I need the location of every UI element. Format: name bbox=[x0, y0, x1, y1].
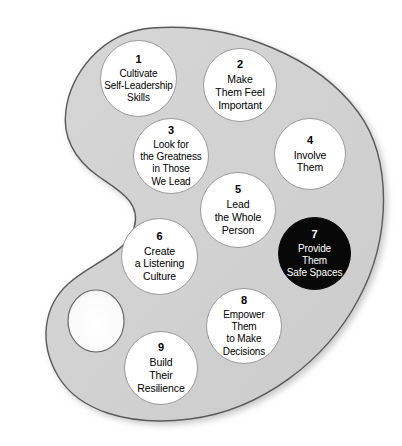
thumb-hole-icon bbox=[68, 290, 124, 352]
artist-palette-shape bbox=[0, 0, 402, 446]
node-number: 5 bbox=[235, 183, 241, 197]
node-number: 1 bbox=[135, 53, 141, 67]
palette-node-8[interactable]: 8 Empower Them to Make Decisions bbox=[206, 288, 282, 364]
palette-node-3[interactable]: 3 Look for the Greatness in Those We Lea… bbox=[133, 118, 209, 194]
palette-node-1[interactable]: 1 Cultivate Self-Leadership Skills bbox=[100, 40, 177, 117]
node-number: 4 bbox=[307, 134, 313, 148]
node-number: 3 bbox=[168, 124, 174, 138]
node-label: Look for the Greatness in Those We Lead bbox=[140, 139, 202, 188]
palette-node-2[interactable]: 2 Make Them Feel Important bbox=[203, 48, 277, 122]
palette-node-9[interactable]: 9 Build Their Resilience bbox=[124, 331, 198, 405]
node-label: Create a Listening Culture bbox=[135, 245, 185, 283]
node-label: Provide Them Safe Spaces bbox=[287, 243, 343, 280]
node-number: 2 bbox=[237, 58, 243, 72]
palette-node-5[interactable]: 5 Lead the Whole Person bbox=[200, 172, 276, 248]
node-label: Lead the Whole Person bbox=[215, 198, 261, 236]
node-number: 7 bbox=[311, 228, 317, 242]
palette-diagram: 1 Cultivate Self-Leadership Skills 2 Mak… bbox=[0, 0, 402, 446]
node-number: 8 bbox=[241, 294, 247, 308]
node-label: Involve Them bbox=[294, 149, 327, 175]
node-label: Make Them Feel Important bbox=[215, 73, 264, 111]
palette-node-6[interactable]: 6 Create a Listening Culture bbox=[121, 218, 198, 295]
node-label: Cultivate Self-Leadership Skills bbox=[104, 68, 173, 105]
node-number: 9 bbox=[158, 341, 164, 355]
palette-node-7[interactable]: 7 Provide Them Safe Spaces bbox=[278, 217, 351, 290]
node-number: 6 bbox=[156, 230, 162, 244]
node-label: Empower Them to Make Decisions bbox=[223, 309, 265, 358]
node-label: Build Their Resilience bbox=[137, 356, 184, 394]
palette-node-4[interactable]: 4 Involve Them bbox=[274, 118, 346, 190]
